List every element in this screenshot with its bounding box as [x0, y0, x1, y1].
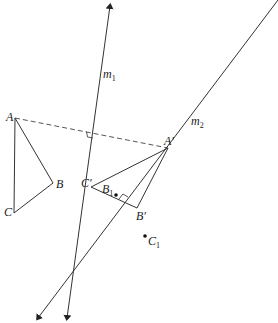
- label-c: C: [4, 205, 13, 219]
- point-b1: [114, 193, 118, 197]
- point-c1: [143, 234, 147, 238]
- triangle-a-prime-b-prime-c-prime: [91, 148, 168, 208]
- triangle-abc: [14, 118, 53, 213]
- label-b: B: [56, 177, 64, 191]
- line-m2: [38, 0, 278, 318]
- label-c1: C1: [148, 234, 160, 250]
- label-a: A: [5, 110, 14, 124]
- label-m2: m2: [191, 114, 204, 130]
- label-a-prime: A′: [163, 134, 174, 148]
- label-c-prime: C′: [81, 176, 92, 190]
- label-b-prime: B′: [136, 209, 146, 223]
- right-angle-marker-m2: [119, 194, 128, 199]
- reflection-diagram: m1 m2 A B C A′ C′ B′ B1 C1: [0, 0, 278, 323]
- label-m1: m1: [103, 67, 116, 83]
- label-b1: B1: [102, 182, 113, 198]
